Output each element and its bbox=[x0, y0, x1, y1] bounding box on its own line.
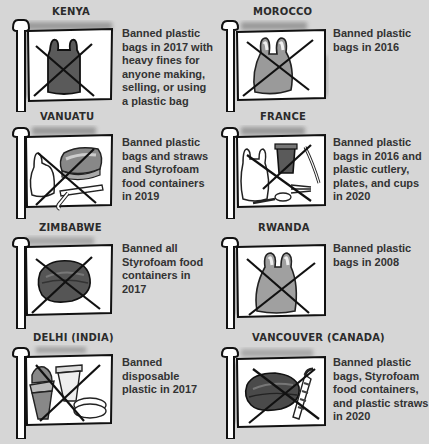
ban-description: Banned plastic bags in 2008 bbox=[333, 242, 425, 269]
ban-card-morocco: MOROCCO Banned plastic bags in 2016 bbox=[215, 0, 429, 111]
ban-card-vancouver: VANCOUVER (CANADA) Banned plastic bags, … bbox=[215, 332, 429, 444]
place-title: VANUATU bbox=[40, 111, 94, 122]
place-title: FRANCE bbox=[260, 111, 306, 122]
ban-card-kenya: KENYA Banned plastic bags in 2017 with h… bbox=[0, 0, 214, 111]
flag-illustration bbox=[8, 343, 120, 439]
ban-card-delhi: DELHI (INDIA) Banned disposable plastic … bbox=[0, 332, 214, 444]
ban-card-france: FRANCE Banned plastic bags in 2016 and p… bbox=[215, 110, 429, 221]
flag-illustration bbox=[219, 233, 331, 329]
flag-illustration bbox=[219, 123, 331, 219]
ban-description: Banned all Styrofoam food containers in … bbox=[122, 242, 214, 296]
flag-illustration bbox=[219, 16, 331, 112]
place-title: RWANDA bbox=[258, 222, 310, 233]
flag-illustration bbox=[8, 123, 120, 219]
ban-description: Banned plastic bags, Styrofoam food cont… bbox=[333, 356, 429, 424]
flag-illustration bbox=[8, 233, 120, 329]
place-title: VANCOUVER (CANADA) bbox=[252, 332, 385, 343]
ban-description: Banned disposable plastic in 2017 bbox=[122, 356, 214, 397]
flag-illustration bbox=[8, 16, 120, 112]
ban-card-rwanda: RWANDA Banned plastic bags in 2008 bbox=[215, 221, 429, 332]
flag-illustration bbox=[219, 343, 331, 439]
place-title: DELHI (INDIA) bbox=[33, 332, 114, 343]
ban-description: Banned plastic bags in 2016 and plastic … bbox=[333, 136, 425, 204]
place-title: ZIMBABWE bbox=[39, 222, 102, 233]
ban-card-vanuatu: VANUATU Banned plastic bags and straws a… bbox=[0, 110, 214, 221]
ban-description: Banned plastic bags and straws and Styro… bbox=[122, 136, 214, 204]
ban-card-zimbabwe: ZIMBABWE Banned all Styrofoam food conta… bbox=[0, 221, 214, 332]
ban-description: Banned plastic bags in 2017 with heavy f… bbox=[122, 27, 214, 108]
ban-description: Banned plastic bags in 2016 bbox=[333, 27, 425, 54]
